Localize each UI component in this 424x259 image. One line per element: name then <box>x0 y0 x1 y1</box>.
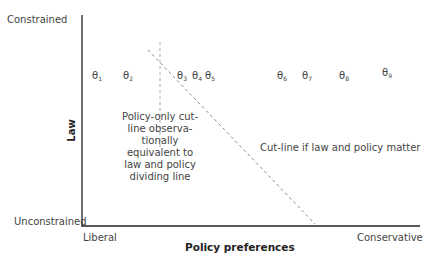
note-line: law and policy <box>122 159 198 171</box>
theta-8: θ8 <box>339 70 349 82</box>
theta-4: θ4 <box>192 70 202 82</box>
y-tick-unconstrained: Unconstrained <box>14 216 87 227</box>
note-line: equivalent to <box>122 147 198 159</box>
x-axis-label: Policy preferences <box>185 241 295 253</box>
policy-only-annotation: Policy-only cut- line observa- tionally … <box>122 111 198 183</box>
theta-6: θ6 <box>277 70 287 82</box>
theta-7: θ7 <box>302 70 312 82</box>
note-line: Policy-only cut- <box>122 111 198 123</box>
theta-2: θ2 <box>123 70 133 82</box>
y-tick-constrained: Constrained <box>7 14 67 25</box>
x-tick-conservative: Conservative <box>357 232 423 243</box>
y-axis-label: Law <box>66 119 77 141</box>
x-tick-liberal: Liberal <box>83 232 117 243</box>
theta-3: θ3 <box>177 70 187 82</box>
theta-9: θ9 <box>382 67 392 79</box>
theta-1: θ1 <box>92 70 102 82</box>
law-policy-annotation: Cut-line if law and policy matter <box>260 142 420 154</box>
note-line: tionally <box>122 135 198 147</box>
note-line: dividing line <box>122 171 198 183</box>
theta-5: θ5 <box>205 70 215 82</box>
note-line: line observa- <box>122 123 198 135</box>
